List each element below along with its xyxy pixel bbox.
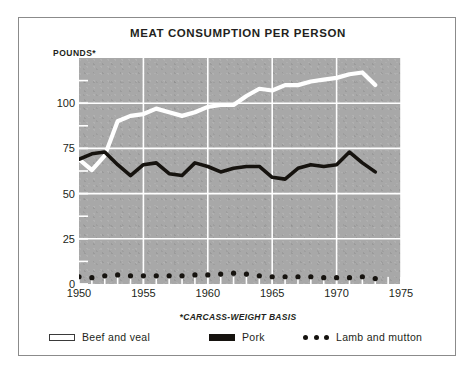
y-tick-50: 50 [23, 188, 75, 200]
x-tick-1965: 1965 [260, 287, 284, 299]
x-tick-1950: 1950 [67, 287, 91, 299]
y-tick-100: 100 [23, 97, 75, 109]
chart-footnote: *CARCASS-WEIGHT BASIS [19, 312, 457, 322]
x-tick-1960: 1960 [196, 287, 220, 299]
legend-item-lamb: Lamb and mutton [303, 329, 422, 345]
chart-figure: MEAT CONSUMPTION PER PERSON POUNDS* 0255… [18, 17, 456, 356]
legend-label-beef: Beef and veal [82, 331, 150, 343]
legend-label-lamb: Lamb and mutton [336, 331, 422, 343]
data-series-layer [79, 58, 401, 284]
legend-item-pork: Pork [209, 329, 265, 345]
x-axis-tick-labels: 195019551960196519701975 [79, 287, 401, 305]
x-tick-1955: 1955 [131, 287, 155, 299]
y-axis-label: POUNDS* [53, 48, 96, 58]
x-tick-1975: 1975 [389, 287, 413, 299]
legend-label-pork: Pork [242, 331, 265, 343]
y-tick-75: 75 [23, 142, 75, 154]
plot-area [79, 58, 401, 284]
chart-title: MEAT CONSUMPTION PER PERSON [19, 27, 457, 39]
chart-legend: Beef and veal Pork Lamb and mutton [49, 329, 439, 349]
pork-line-swatch-icon [209, 334, 235, 341]
y-tick-25: 25 [23, 233, 75, 245]
y-axis-tick-labels: 0255075100 [19, 58, 75, 284]
lamb-dots-swatch-icon [303, 334, 329, 341]
beef-line-swatch-icon [49, 334, 75, 341]
x-tick-1970: 1970 [324, 287, 348, 299]
legend-item-beef: Beef and veal [49, 329, 150, 345]
